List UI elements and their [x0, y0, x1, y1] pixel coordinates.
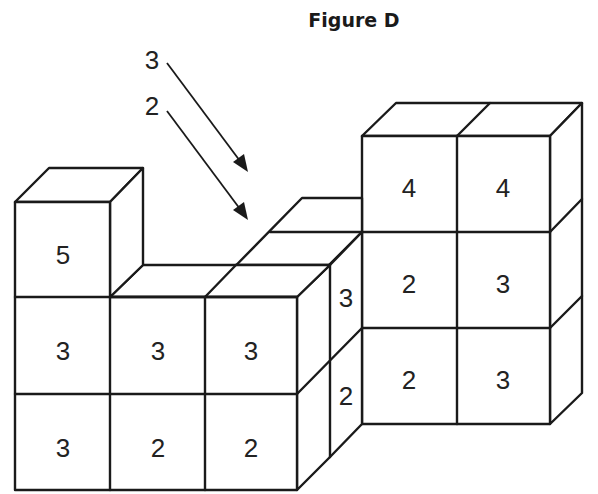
- figure-d-diagram: Figure D 3 2: [0, 0, 598, 494]
- cell-label: 4: [496, 173, 510, 203]
- cell-label: 2: [402, 269, 416, 299]
- arrow-label-bottom: 2: [145, 91, 159, 121]
- cell-label: 2: [244, 433, 258, 463]
- cell-label: 3: [496, 365, 510, 395]
- cell-label: 3: [244, 336, 258, 366]
- figure-title: Figure D: [308, 9, 399, 31]
- cell-label: 2: [151, 433, 165, 463]
- side-cell-label: 2: [339, 381, 353, 411]
- side-cell-label: 3: [339, 283, 353, 313]
- cell-label: 4: [402, 173, 416, 203]
- right-block-side-face: [550, 103, 582, 424]
- right-block: [362, 103, 582, 424]
- arrowhead-icon: [233, 202, 248, 220]
- cell-label: 3: [496, 269, 510, 299]
- cell-label: 5: [56, 240, 70, 270]
- arrow-top: [167, 63, 248, 172]
- cell-label: 3: [151, 336, 165, 366]
- arrowhead-icon: [233, 154, 248, 172]
- cell-label: 3: [56, 336, 70, 366]
- cell-label: 3: [56, 433, 70, 463]
- cell-label: 2: [402, 365, 416, 395]
- arrow-bottom: [167, 111, 248, 220]
- arrow-label-top: 3: [145, 45, 159, 75]
